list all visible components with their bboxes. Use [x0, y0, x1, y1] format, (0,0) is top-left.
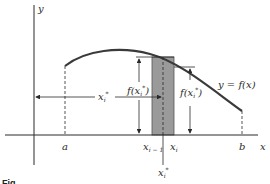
x-axis-label: x — [260, 141, 266, 152]
riemann-sum-diagram: y x a b y = f(x) xi − 1 xi xi* xi* f(xi*… — [0, 0, 270, 184]
label-sample-point-below: xi* — [158, 166, 169, 179]
y-axis-label: y — [37, 3, 44, 14]
label-height-right: f(xi*) — [179, 86, 202, 99]
figure-caption: Fig. — [2, 178, 18, 184]
label-a: a — [62, 141, 68, 152]
label-x-i: xi — [170, 141, 178, 153]
label-b: b — [239, 141, 245, 152]
curve-label: y = f(x) — [217, 79, 256, 90]
label-x-i-minus-1: xi − 1 — [143, 141, 163, 153]
label-height-left: f(xi*) — [126, 84, 149, 97]
label-sample-point-distance: xi* — [98, 90, 109, 103]
